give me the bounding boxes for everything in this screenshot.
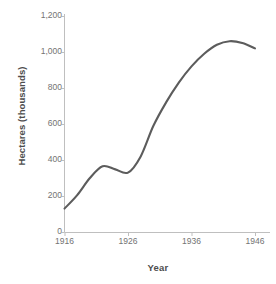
line-chart: 02004006008001,0001,200 1916192619361946… [0, 0, 276, 284]
x-axis-tick-labels: 1916192619361946 [0, 0, 276, 284]
x-axis-tick-label: 1946 [235, 236, 275, 246]
x-axis-title: Year [60, 262, 256, 273]
x-axis-tick-label: 1926 [108, 236, 148, 246]
x-axis-tick-label: 1916 [45, 236, 85, 246]
x-axis-tick-label: 1936 [172, 236, 212, 246]
y-axis-title: Hectares (thousands) [14, 0, 28, 232]
